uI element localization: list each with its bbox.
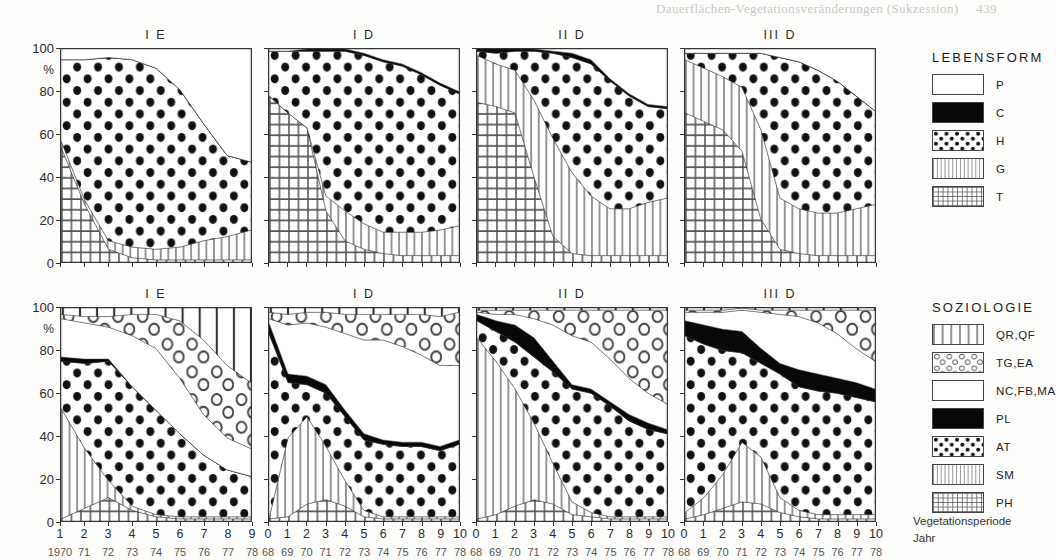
x-tick [156, 263, 157, 267]
x-tick [228, 522, 229, 526]
x-tick [876, 263, 877, 267]
legend-label: TG,EA [996, 357, 1034, 369]
x-year-label: 76 [831, 546, 843, 558]
x-tick [441, 522, 442, 526]
y-tick [56, 134, 60, 135]
x-tick [684, 522, 685, 526]
x-tick [572, 263, 573, 267]
legend-swatch-grid [932, 492, 984, 513]
x-tick-label: 4 [341, 527, 348, 541]
legend-label: T [996, 191, 1004, 203]
x-year-label: 69 [281, 546, 293, 558]
x-tick [268, 522, 269, 526]
x-tick-label: 8 [418, 527, 425, 541]
x-tick-label: 2 [303, 527, 310, 541]
x-tick-label: 5 [569, 527, 576, 541]
chart-panel-lebensform-IIID: III D [684, 48, 876, 263]
x-year-label: 72 [547, 546, 559, 558]
y-tick [56, 220, 60, 221]
x-tick [422, 522, 423, 526]
legend-item: SM [932, 464, 1056, 485]
y-tick-label: 60 [20, 386, 54, 401]
plot-area [684, 307, 876, 522]
x-tick [268, 263, 269, 267]
x-tick-label: 8 [225, 527, 232, 541]
y-tick [472, 393, 476, 394]
legend-swatch-vlines-wide [932, 324, 984, 345]
y-tick [264, 91, 268, 92]
y-tick [472, 307, 476, 308]
x-tick-label: 6 [588, 527, 595, 541]
y-tick [56, 436, 60, 437]
x-year-label: 78 [662, 546, 674, 558]
x-year-label: 78 [246, 546, 258, 558]
x-year-label: 71 [319, 546, 331, 558]
x-tick [742, 522, 743, 526]
y-tick-label: 20 [20, 472, 54, 487]
x-year-label: 77 [643, 546, 655, 558]
x-year-label: 77 [851, 546, 863, 558]
legend-item: G [932, 158, 1044, 179]
legend-item: NC,FB,MA [932, 380, 1056, 401]
x-year-label: 72 [102, 546, 114, 558]
y-tick [472, 350, 476, 351]
x-axis-name-period: Vegetationsperiode [913, 515, 1011, 527]
x-tick [84, 263, 85, 267]
x-year-label: 71 [527, 546, 539, 558]
legend-label: NC,FB,MA [996, 385, 1056, 397]
y-tick-label: 0 [20, 515, 54, 530]
x-year-label: 77 [435, 546, 447, 558]
chart-panel-lebensform-ID: I D [268, 48, 460, 263]
x-tick-label: 0 [265, 527, 272, 541]
x-tick [228, 263, 229, 267]
y-tick [264, 307, 268, 308]
x-year-label: 78 [454, 546, 466, 558]
legend-soziologie: SOZIOLOGIE QR,QF [932, 300, 1056, 520]
x-tick [204, 522, 205, 526]
y-tick-label: 40 [20, 170, 54, 185]
x-tick [383, 263, 384, 267]
running-head-text: Dauerflächen-Vegetationsveränderungen (S… [656, 1, 959, 16]
x-tick-label: 8 [626, 527, 633, 541]
legend-swatch-circles [932, 352, 984, 373]
x-tick-label: 3 [530, 527, 537, 541]
x-tick-label: 7 [815, 527, 822, 541]
y-tick [56, 91, 60, 92]
x-year-label: 76 [623, 546, 635, 558]
x-tick [610, 522, 611, 526]
y-tick-label: 80 [20, 343, 54, 358]
y-axis-unit: % [20, 63, 54, 77]
x-tick [857, 522, 858, 526]
x-tick-label: 1 [700, 527, 707, 541]
x-year-label: 75 [174, 546, 186, 558]
x-tick [514, 522, 515, 526]
chart-panel-soziologie-IID: II D 0681692703714725736747758769771078 [476, 307, 668, 522]
x-tick-label: 3 [105, 527, 112, 541]
x-tick-label: 3 [322, 527, 329, 541]
x-tick [799, 263, 800, 267]
y-tick-label: 40 [20, 429, 54, 444]
x-tick-label: 7 [201, 527, 208, 541]
x-tick [799, 522, 800, 526]
x-tick [668, 522, 669, 526]
x-axis-name-year: Jahr [913, 532, 935, 544]
legend-label: PH [996, 497, 1013, 509]
x-year-label: 76 [198, 546, 210, 558]
running-head: Dauerflächen-Vegetationsveränderungen (S… [0, 1, 1055, 17]
x-tick-label: 2 [511, 527, 518, 541]
y-tick [680, 134, 684, 135]
y-tick [56, 48, 60, 49]
x-tick [180, 263, 181, 267]
x-tick-label: 9 [437, 527, 444, 541]
x-year-label: 70 [716, 546, 728, 558]
x-year-label: 73 [774, 546, 786, 558]
legend-swatch-vlines [932, 158, 984, 179]
y-tick-label: 100 [20, 300, 54, 315]
y-tick [472, 48, 476, 49]
legend-label: C [996, 107, 1005, 119]
x-tick [287, 522, 288, 526]
x-tick [630, 522, 631, 526]
x-year-label: 78 [870, 546, 882, 558]
legend-label: PL [996, 413, 1011, 425]
x-tick [630, 263, 631, 267]
